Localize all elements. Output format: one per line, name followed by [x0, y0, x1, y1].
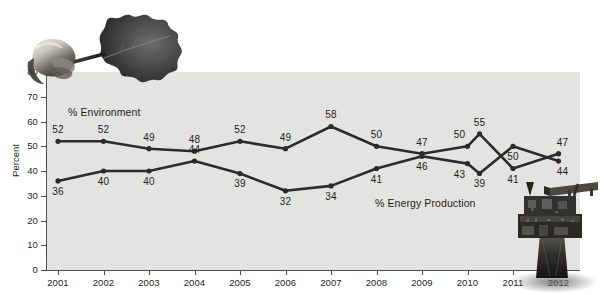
environment-value-label: 49: [273, 132, 299, 143]
environment-value-label: 47: [409, 137, 435, 148]
environment-value-label: 58: [318, 109, 344, 120]
energy-production-point: [237, 171, 242, 176]
energy-production-value-label: 39: [227, 178, 253, 189]
energy-production-value-label: 40: [136, 176, 162, 187]
environment-point: [477, 131, 482, 136]
energy-production-point: [283, 188, 288, 193]
environment-point: [465, 144, 470, 149]
environment-value-label: 50: [447, 129, 473, 140]
energy-production-point: [328, 183, 333, 188]
energy-production-value-label: 41: [364, 174, 390, 185]
energy-production-value-label: 34: [318, 191, 344, 202]
chart-canvas: Percent 01020304050607080 20012002200320…: [0, 0, 604, 295]
markers-environment: [55, 124, 561, 171]
environment-point: [55, 139, 60, 144]
environment-point: [556, 151, 561, 156]
line-environment: [58, 127, 559, 169]
environment-value-label: 47: [550, 137, 576, 148]
series-line-layer: [0, 0, 604, 295]
energy-production-point: [510, 144, 515, 149]
energy-production-value-label: 44: [182, 144, 208, 155]
environment-value-label: 52: [227, 124, 253, 135]
energy-production-value-label: 36: [45, 186, 71, 197]
energy-production-value-label: 46: [409, 161, 435, 172]
environment-value-label: 50: [364, 129, 390, 140]
environment-value-label: 52: [91, 124, 117, 135]
environment-point: [146, 146, 151, 151]
environment-value-label: 49: [136, 132, 162, 143]
energy-production-value-label: 39: [467, 178, 493, 189]
energy-production-value-label: 50: [500, 151, 526, 162]
energy-production-value-label: 44: [550, 166, 576, 177]
energy-production-point: [146, 168, 151, 173]
energy-production-value-label: 40: [91, 176, 117, 187]
energy-production-point: [465, 161, 470, 166]
environment-point: [510, 166, 515, 171]
environment-point: [283, 146, 288, 151]
energy-production-point: [101, 168, 106, 173]
energy-production-point: [477, 171, 482, 176]
environment-point: [237, 139, 242, 144]
environment-value-label: 41: [500, 174, 526, 185]
environment-value-label: 52: [45, 124, 71, 135]
environment-point: [419, 151, 424, 156]
environment-value-label: 55: [467, 117, 493, 128]
series-label-environment: % Environment: [68, 106, 141, 118]
energy-production-point: [55, 178, 60, 183]
environment-point: [328, 124, 333, 129]
environment-point: [101, 139, 106, 144]
environment-point: [374, 144, 379, 149]
energy-production-point: [556, 159, 561, 164]
series-label-energy-production: % Energy Production: [375, 197, 476, 209]
energy-production-point: [374, 166, 379, 171]
energy-production-value-label: 32: [273, 196, 299, 207]
energy-production-point: [192, 159, 197, 164]
